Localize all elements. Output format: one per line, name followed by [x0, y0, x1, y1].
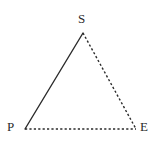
- edge-PS: [25, 33, 83, 129]
- vertex-label-e: E: [140, 120, 148, 133]
- edge-SE: [83, 33, 136, 129]
- figure-canvas: S P E: [0, 0, 156, 151]
- vertex-label-p: P: [7, 120, 14, 133]
- vertex-label-s: S: [78, 12, 85, 25]
